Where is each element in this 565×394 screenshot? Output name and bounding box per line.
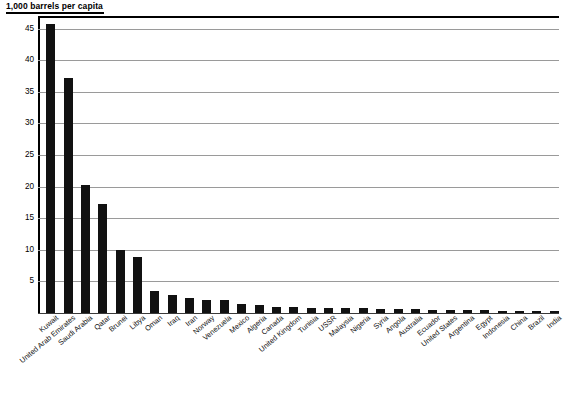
y-tick-label: 20: [4, 183, 34, 191]
gridline: [38, 29, 559, 30]
chart-title-wrap: 1,000 barrels per capita: [6, 1, 103, 11]
bar: [185, 298, 194, 313]
x-tick-label: Oman: [143, 314, 164, 333]
gridline: [38, 92, 559, 93]
x-tick-label: India: [546, 314, 563, 330]
y-tick-label: 5: [4, 277, 34, 285]
x-axis-tick-labels: KuwaitUnited Arab EmiratesSaudi ArabiaQa…: [38, 314, 559, 394]
bar: [150, 291, 159, 313]
bar: [98, 204, 107, 313]
gridline: [38, 123, 559, 124]
x-tick-label: Libya: [128, 314, 147, 331]
chart-root: 1,000 barrels per capita 510152025303540…: [0, 0, 565, 394]
bar: [237, 304, 246, 313]
bar: [64, 78, 73, 313]
y-tick-label: 10: [4, 246, 34, 254]
bar: [272, 307, 281, 313]
y-tick-label: 45: [4, 25, 34, 33]
gridline: [38, 60, 559, 61]
bar: [81, 185, 90, 313]
x-tick-label: Iraq: [166, 314, 181, 328]
x-tick-label: China: [509, 314, 529, 333]
title-underline: [6, 12, 104, 14]
bar: [133, 257, 142, 313]
bar: [202, 300, 211, 313]
gridline: [38, 218, 559, 219]
y-tick-label: 15: [4, 214, 34, 222]
gridline: [38, 187, 559, 188]
bar: [359, 308, 368, 313]
y-tick-label: 30: [4, 119, 34, 127]
bar: [116, 250, 125, 313]
bar: [46, 24, 55, 313]
bar: [255, 305, 264, 313]
y-tick-label: 40: [4, 56, 34, 64]
y-tick-label: 35: [4, 88, 34, 96]
x-tick-label: Brunei: [108, 314, 130, 334]
chart-title: 1,000 barrels per capita: [6, 1, 103, 11]
x-tick-label: Brazil: [527, 314, 546, 332]
bar: [168, 295, 177, 313]
gridline: [38, 155, 559, 156]
plot-area: [38, 16, 559, 313]
y-tick-label: 25: [4, 151, 34, 159]
bar: [446, 310, 455, 313]
bar: [220, 300, 229, 313]
